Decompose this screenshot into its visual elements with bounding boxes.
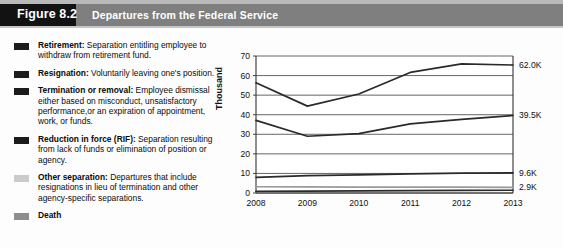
chart-area: Thousand 0102030405060702008200920102011… (216, 36, 563, 221)
legend-item: Resignation: Voluntarily leaving one's p… (14, 68, 220, 78)
line-chart-svg: 0102030405060702008200920102011201220136… (216, 36, 563, 221)
y-tick-label: 30 (240, 129, 250, 139)
x-tick-label: 2012 (452, 198, 471, 208)
x-tick-label: 2008 (246, 198, 265, 208)
x-tick-label: 2009 (298, 198, 317, 208)
y-tick-label: 10 (240, 168, 250, 178)
legend-item: Reduction in force (RIF): Separation res… (14, 134, 220, 165)
legend-item-text: Termination or removal: Employee dismiss… (38, 85, 220, 127)
x-tick-label: 2013 (503, 198, 522, 208)
figure-legend: Retirement: Separation entitling employe… (14, 40, 220, 228)
legend-swatch-icon (14, 213, 29, 220)
legend-item: Termination or removal: Employee dismiss… (14, 85, 220, 127)
legend-item-term: Other separation: (38, 172, 108, 182)
series-line (256, 190, 513, 191)
legend-swatch-icon (14, 71, 29, 78)
y-tick-label: 60 (240, 71, 250, 81)
y-tick-label: 20 (240, 149, 250, 159)
legend-swatch-icon (14, 88, 29, 95)
series-end-label: 62.0K (519, 60, 542, 70)
legend-item-text: Reduction in force (RIF): Separation res… (38, 134, 220, 165)
header-underline (0, 26, 563, 28)
figure-header-bar: Figure 8.2 Departures from the Federal S… (0, 4, 563, 26)
legend-item: Other separation: Departures that includ… (14, 172, 220, 203)
legend-item-term: Death (38, 210, 61, 220)
legend-item-term: Resignation: (38, 68, 89, 78)
legend-item-term: Retirement: (38, 40, 85, 50)
legend-item-term: Reduction in force (RIF): (38, 134, 136, 144)
y-tick-label: 70 (240, 51, 250, 61)
x-tick-label: 2010 (349, 198, 368, 208)
legend-item: Retirement: Separation entitling employe… (14, 40, 220, 61)
figure-container: Figure 8.2 Departures from the Federal S… (0, 0, 563, 248)
legend-swatch-icon (14, 137, 29, 144)
series-end-label: 39.5K (519, 110, 542, 120)
legend-swatch-icon (14, 175, 29, 182)
legend-item-text: Other separation: Departures that includ… (38, 172, 220, 203)
series-line (256, 187, 513, 188)
figure-title: Departures from the Federal Service (92, 9, 278, 21)
y-tick-label: 0 (245, 188, 250, 198)
x-tick-label: 2011 (401, 198, 420, 208)
legend-item-text: Resignation: Voluntarily leaving one's p… (38, 68, 220, 78)
legend-item-text: Retirement: Separation entitling employe… (38, 40, 220, 61)
legend-swatch-icon (14, 43, 29, 50)
figure-number-label: Figure 8.2 (17, 7, 77, 21)
legend-item: Death (14, 210, 220, 220)
y-tick-label: 40 (240, 110, 250, 120)
figure-number-badge: Figure 8.2 (0, 4, 76, 26)
legend-item-text: Death (38, 210, 220, 220)
series-end-label: 9.6K (519, 168, 537, 178)
legend-item-term: Termination or removal: (38, 85, 133, 95)
legend-item-description: Voluntarily leaving one's position. (89, 68, 214, 78)
series-end-label: 2.9K (519, 182, 537, 192)
y-tick-label: 50 (240, 90, 250, 100)
